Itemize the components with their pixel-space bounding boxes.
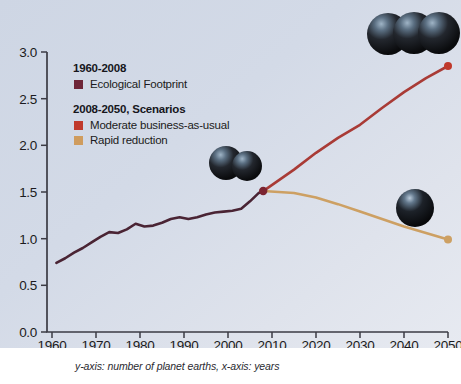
legend-swatch-ecological-footprint bbox=[74, 80, 83, 89]
x-tick-label: 2010 bbox=[258, 338, 287, 348]
legend-heading-scenarios: 2008-2050, Scenarios bbox=[73, 103, 185, 115]
x-tick-label: 2030 bbox=[346, 338, 375, 348]
y-tick-label: 1.5 bbox=[19, 185, 37, 200]
globe-one-2050 bbox=[396, 189, 434, 227]
chart-panel: 3.0 2.5 2.0 1.5 1.0 0.5 0.0 bbox=[0, 0, 461, 348]
x-tick-label: 1960 bbox=[38, 338, 67, 348]
y-tick-label: 0.5 bbox=[19, 278, 37, 293]
legend-item-moderate-business-as-usual: Moderate business-as-usual bbox=[74, 119, 229, 131]
rapid-endpoint-marker bbox=[444, 236, 452, 244]
legend-label-moderate-business-as-usual: Moderate business-as-usual bbox=[90, 119, 229, 131]
x-axis-tick-labels: 1960 1970 1980 1990 2000 2010 2020 2030 … bbox=[38, 338, 461, 348]
globes-two-2008 bbox=[209, 146, 262, 181]
series-line-ecological-footprint bbox=[56, 191, 263, 263]
branch-point-marker bbox=[259, 187, 267, 195]
x-tick-label: 2000 bbox=[214, 338, 243, 348]
legend-item-ecological-footprint: Ecological Footprint bbox=[74, 78, 187, 90]
x-tick-label: 2040 bbox=[390, 338, 419, 348]
x-tick-label: 1980 bbox=[126, 338, 155, 348]
y-tick-label: 2.5 bbox=[19, 92, 37, 107]
y-tick-label: 1.0 bbox=[19, 232, 37, 247]
legend-label-rapid-reduction: Rapid reduction bbox=[90, 134, 168, 146]
y-axis-ticks bbox=[41, 52, 47, 332]
y-tick-label: 0.0 bbox=[19, 325, 37, 340]
x-tick-label: 2050 bbox=[434, 338, 461, 348]
y-axis-tick-labels: 3.0 2.5 2.0 1.5 1.0 0.5 0.0 bbox=[19, 45, 37, 340]
moderate-endpoint-marker bbox=[444, 62, 452, 70]
legend-swatch-rapid-reduction bbox=[74, 136, 83, 145]
ecological-footprint-figure: 3.0 2.5 2.0 1.5 1.0 0.5 0.0 bbox=[0, 0, 461, 384]
legend-item-rapid-reduction: Rapid reduction bbox=[74, 134, 168, 146]
legend-label-ecological-footprint: Ecological Footprint bbox=[90, 78, 187, 90]
axis-lines bbox=[47, 52, 448, 332]
x-tick-label: 1970 bbox=[82, 338, 111, 348]
x-tick-label: 1990 bbox=[170, 338, 199, 348]
legend-heading-historical: 1960-2008 bbox=[73, 62, 126, 74]
globes-three-2050 bbox=[367, 12, 460, 55]
x-tick-label: 2020 bbox=[302, 338, 331, 348]
legend-swatch-moderate-business-as-usual bbox=[74, 121, 83, 130]
chart-plot-area: 3.0 2.5 2.0 1.5 1.0 0.5 0.0 bbox=[0, 0, 461, 348]
y-tick-label: 2.0 bbox=[19, 138, 37, 153]
y-tick-label: 3.0 bbox=[19, 45, 37, 60]
figure-caption: y-axis: number of planet earths, x-axis:… bbox=[75, 360, 279, 372]
series-line-moderate-business-as-usual bbox=[263, 66, 448, 191]
